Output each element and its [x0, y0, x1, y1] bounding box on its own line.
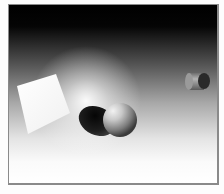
cylinder [185, 73, 210, 90]
sphere [103, 103, 137, 137]
image-canvas [0, 0, 224, 194]
rendered-scene [9, 5, 217, 183]
image-frame [8, 4, 219, 185]
cylinder-cap [198, 73, 210, 89]
